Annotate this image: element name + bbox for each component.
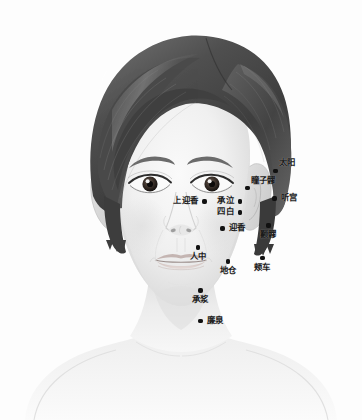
- acupoint-dot: [260, 256, 265, 261]
- acupoint-label: 听宫: [281, 193, 298, 202]
- acupoint-dot: [196, 245, 201, 250]
- acupoint-dot: [198, 319, 203, 324]
- acupoint-label: 颧髎: [260, 230, 277, 239]
- acupoint-label: 四白: [217, 207, 234, 216]
- acupoint-dot: [220, 226, 225, 231]
- acupoint-diagram: 太阳 瞳子髎 听宫 上迎香 承泣 四白 迎香 颧髎: [0, 0, 362, 420]
- acupoint-dot: [198, 288, 203, 293]
- acupoint-label: 迎香: [229, 223, 246, 232]
- acupoint-label: 上迎香: [173, 196, 198, 205]
- acupoint-dot: [202, 199, 207, 204]
- acupoint-label: 廉泉: [207, 316, 224, 325]
- acupoint-label: 人中: [190, 252, 207, 261]
- acupoint-label: 承浆: [192, 295, 209, 304]
- acupoint-label: 承泣: [217, 196, 234, 205]
- acupoint-dot: [272, 196, 277, 201]
- acupoint-dot: [238, 199, 243, 204]
- acupoint-label: 颊车: [254, 263, 271, 272]
- acupoint-dot: [245, 186, 250, 191]
- acupoint-label: 地仓: [220, 266, 237, 275]
- acupoint-label: 瞳子髎: [251, 176, 276, 185]
- acupoint-dot: [266, 223, 271, 228]
- acupoint-markers-layer: 太阳 瞳子髎 听宫 上迎香 承泣 四白 迎香 颧髎: [0, 0, 362, 420]
- acupoint-label: 太阳: [279, 158, 296, 167]
- acupoint-dot: [238, 210, 243, 215]
- acupoint-dot: [226, 259, 231, 264]
- acupoint-dot: [273, 169, 278, 174]
